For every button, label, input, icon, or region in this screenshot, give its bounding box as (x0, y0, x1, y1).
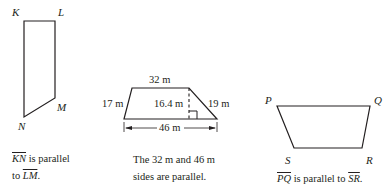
vertex-label-s: S (285, 154, 291, 166)
measure-left: 17 m (102, 98, 123, 109)
caption-klmn: KN is parallel to LM. (12, 150, 70, 184)
caption-trapezoid-line1: The 32 m and 46 m (133, 154, 215, 165)
arrowhead-right-icon (209, 126, 216, 130)
caption-trapezoid-line2: sides are parallel. (133, 171, 206, 182)
segment-lm: LM (23, 170, 38, 181)
caption-klmn-end: . (37, 170, 40, 181)
right-angle-marker (189, 111, 197, 119)
caption-klmn-text1: is parallel (26, 153, 70, 164)
vertex-label-k: K (11, 6, 20, 18)
measure-right: 19 m (208, 98, 229, 109)
quadrilateral-pqrs: P Q S R (264, 94, 382, 166)
caption-pqrs-text: is parallel to (291, 173, 348, 184)
measure-top: 32 m (149, 74, 170, 85)
vertex-label-n: N (17, 120, 26, 132)
vertex-label-r: R (365, 154, 373, 166)
quadrilateral-klmn: K L M N (11, 6, 67, 132)
vertex-label-m: M (56, 101, 67, 113)
shape-klmn (24, 21, 55, 117)
vertex-label-q: Q (374, 94, 382, 106)
measure-bottom: 46 m (159, 122, 180, 133)
shape-pqrs (277, 106, 370, 148)
vertex-label-l: L (57, 6, 64, 18)
caption-pqrs: PQ is parallel to SR. (277, 170, 362, 187)
segment-kn: KN (12, 153, 26, 164)
caption-klmn-text2: to (12, 170, 23, 181)
trapezoid-figure: 32 m 17 m 16.4 m 19 m 46 m (102, 74, 229, 133)
caption-pqrs-end: . (360, 173, 363, 184)
caption-trapezoid: The 32 m and 46 m sides are parallel. (133, 151, 215, 185)
segment-pq: PQ (277, 173, 291, 184)
segment-sr: SR (348, 173, 360, 184)
measure-height: 16.4 m (154, 98, 183, 109)
arrowhead-left-icon (125, 126, 132, 130)
vertex-label-p: P (264, 94, 272, 106)
